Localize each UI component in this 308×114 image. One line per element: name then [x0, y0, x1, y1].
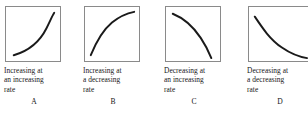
curve-path-a — [14, 13, 55, 55]
panel-c: Decreasing at an increasing rate C — [160, 0, 238, 114]
curve-path-b — [91, 12, 134, 55]
panel-c-caption: Decreasing at an increasing rate — [164, 66, 236, 94]
panel-b: Increasing at a decreasing rate B — [79, 0, 157, 114]
concave-increasing-curve — [85, 7, 139, 61]
panel-b-letter: B — [79, 97, 147, 107]
panel-b-caption: Increasing at a decreasing rate — [83, 66, 155, 94]
panel-c-letter: C — [160, 97, 228, 107]
panel-a-letter: A — [0, 97, 68, 107]
panel-a: Increasing at an increasing rate A — [0, 0, 78, 114]
plot-box-a — [5, 6, 61, 62]
rate-of-change-figure: Increasing at an increasing rate A Incre… — [0, 0, 308, 114]
curve-path-c — [173, 14, 212, 58]
convex-increasing-curve — [6, 7, 60, 61]
plot-box-c — [165, 6, 221, 62]
plot-box-b — [84, 6, 140, 62]
convex-decreasing-curve — [249, 7, 308, 61]
plot-box-d — [248, 6, 308, 62]
panel-d-letter: D — [243, 97, 308, 107]
panel-a-caption: Increasing at an increasing rate — [4, 66, 76, 94]
curve-path-d — [255, 17, 307, 58]
panel-d: Decreasing at a decreasing rate D — [243, 0, 308, 114]
concave-decreasing-curve — [166, 7, 220, 61]
panel-d-caption: Decreasing at a decreasing rate — [247, 66, 308, 94]
